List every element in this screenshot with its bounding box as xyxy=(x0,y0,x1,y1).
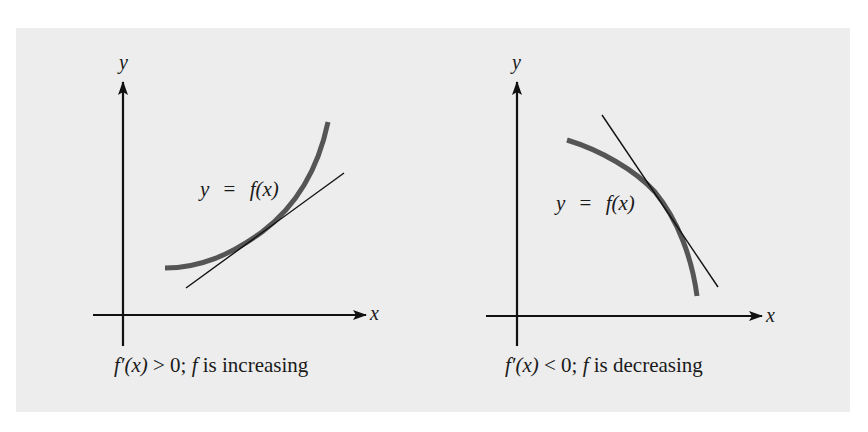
right-graph: y x y = f(x) xyxy=(486,51,775,346)
right-caption-f: f xyxy=(583,353,589,377)
right-caption: f′(x) < 0; f is decreasing xyxy=(505,353,703,378)
left-increasing-curve xyxy=(165,122,328,268)
left-graph: y x y = f(x) xyxy=(93,51,379,346)
left-x-axis-label: x xyxy=(369,302,379,324)
right-x-axis-label: x xyxy=(765,304,775,326)
left-caption: f′(x) > 0; f is increasing xyxy=(114,353,308,378)
left-curve-label: y = f(x) xyxy=(198,177,279,201)
left-caption-value: 0; xyxy=(170,353,186,377)
left-y-axis-label: y xyxy=(117,51,128,74)
left-caption-text: is increasing xyxy=(203,353,309,377)
right-y-axis-label: y xyxy=(510,51,521,74)
right-caption-relation: < xyxy=(544,353,556,377)
right-decreasing-curve xyxy=(567,140,697,296)
left-caption-f: f xyxy=(192,353,198,377)
right-curve-label: y = f(x) xyxy=(554,191,635,215)
left-caption-fprime: f′(x) xyxy=(114,353,148,377)
right-caption-fprime: f′(x) xyxy=(505,353,539,377)
left-caption-relation: > xyxy=(153,353,165,377)
right-caption-value: 0; xyxy=(561,353,577,377)
right-caption-text: is decreasing xyxy=(594,353,703,377)
